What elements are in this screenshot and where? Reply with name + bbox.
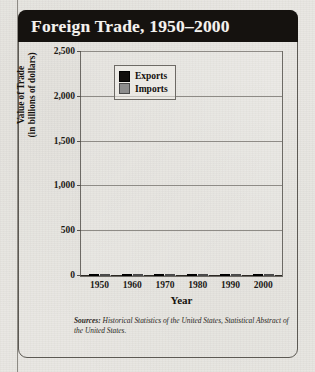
- gridline-1000: 1,000: [81, 185, 282, 186]
- bar-group-1980: 1980: [183, 274, 212, 276]
- source-note: Sources: Historical Statistics of the Un…: [74, 316, 289, 335]
- bar-imports-1970[interactable]: [165, 274, 175, 276]
- bar-imports-1980[interactable]: [198, 274, 208, 276]
- bar-group-2000: 2000: [249, 274, 278, 276]
- chart-legend: Exports Imports: [114, 65, 176, 100]
- ytick-mark-1500: [77, 141, 81, 142]
- bar-exports-1950[interactable]: [89, 274, 99, 276]
- bar-exports-1980[interactable]: [187, 274, 197, 276]
- ytick-label-0: 0: [70, 270, 75, 280]
- bar-imports-1960[interactable]: [133, 274, 143, 276]
- y-axis-title: Value of Trade (in billions of dollars): [16, 30, 38, 160]
- ytick-label-1000: 1,000: [54, 180, 75, 190]
- gridline-2000: 2,000: [81, 96, 282, 97]
- bar-group-1960: 1960: [118, 274, 147, 276]
- bar-imports-1990[interactable]: [231, 274, 241, 276]
- gridline-1500: 1,500: [81, 141, 282, 142]
- bar-imports-1950[interactable]: [100, 274, 110, 276]
- bar-exports-1960[interactable]: [122, 274, 132, 276]
- gridline-2500: 2,500: [81, 51, 282, 52]
- source-note-text: Historical Statistics of the United Stat…: [74, 316, 289, 335]
- exports-swatch-icon: [119, 71, 130, 82]
- bar-imports-2000[interactable]: [264, 274, 274, 276]
- y-axis-title-line2: (in billions of dollars): [27, 30, 38, 160]
- ytick-mark-2500: [77, 51, 81, 52]
- bar-group-1950: 1950: [85, 274, 114, 276]
- x-axis-title: Year: [80, 294, 283, 306]
- legend-label-imports: Imports: [135, 84, 168, 94]
- ytick-label-2500: 2,500: [54, 46, 75, 56]
- bar-exports-1970[interactable]: [154, 274, 164, 276]
- ytick-label-500: 500: [61, 225, 75, 235]
- bar-group-1990: 1990: [216, 274, 245, 276]
- chart-area: Value of Trade (in billions of dollars) …: [18, 42, 298, 358]
- bar-exports-1990[interactable]: [220, 274, 230, 276]
- ytick-label-2000: 2,000: [54, 91, 75, 101]
- ytick-mark-1000: [77, 185, 81, 186]
- imports-swatch-icon: [119, 83, 130, 94]
- ytick-label-1500: 1,500: [54, 136, 75, 146]
- ytick-mark-2000: [77, 96, 81, 97]
- legend-entry-exports[interactable]: Exports: [119, 71, 168, 82]
- xtick-label-2000: 2000: [240, 280, 286, 290]
- ytick-mark-0: [77, 275, 81, 276]
- source-note-label: Sources:: [74, 316, 101, 325]
- y-axis-title-line1: Value of Trade: [16, 30, 27, 160]
- gridline-500: 500: [81, 230, 282, 231]
- bar-group-1970: 1970: [151, 274, 180, 276]
- figure-title-banner: Foreign Trade, 1950–2000: [18, 10, 298, 42]
- ytick-mark-500: [77, 230, 81, 231]
- plot-area: 2,500 2,000 1,500 1,000 500 0 1950: [80, 51, 283, 277]
- bar-exports-2000[interactable]: [253, 274, 263, 276]
- page-title: Foreign Trade, 1950–2000: [18, 16, 230, 37]
- legend-label-exports: Exports: [135, 71, 167, 81]
- legend-entry-imports[interactable]: Imports: [119, 83, 168, 94]
